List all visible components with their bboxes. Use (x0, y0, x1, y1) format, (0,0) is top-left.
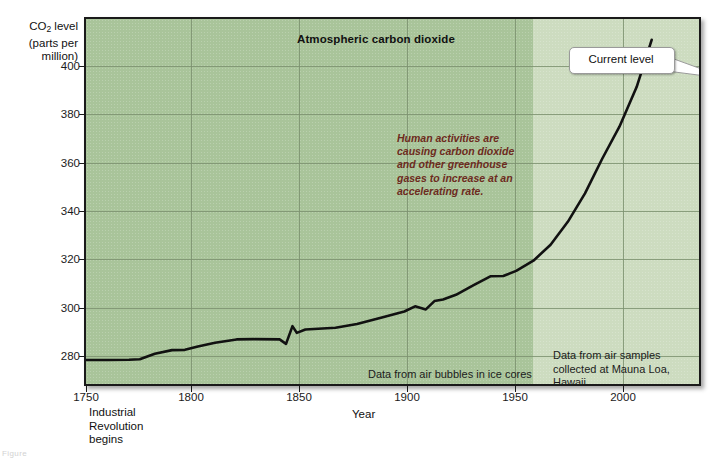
chart-title: Atmospheric carbon dioxide (297, 33, 455, 45)
x-tick-label-2000: 2000 (600, 391, 646, 403)
x-tick-label-1950: 1950 (492, 391, 538, 403)
chart-annotation: Human activities are causing carbon diox… (397, 132, 527, 198)
industrial-revolution-line1: Industrial (89, 406, 136, 418)
current-level-callout[interactable]: Current level (569, 47, 701, 87)
callout-label: Current level (569, 47, 673, 72)
figure-caption: Figure (2, 449, 27, 458)
x-tick-label-1800: 1800 (168, 391, 214, 403)
figure-container: CO2 level (parts per million) 400 380 36… (0, 0, 717, 458)
y-tick-label-360: 360 (34, 158, 80, 170)
x-tick-label-1850: 1850 (276, 391, 322, 403)
y-axis-title-co2: CO2 level (29, 20, 78, 32)
plot-area: Atmospheric carbon dioxide Human activit… (84, 17, 701, 386)
y-axis-unit: (parts per million) (29, 37, 78, 63)
x-tick-label-1900: 1900 (384, 391, 430, 403)
x-axis-title: Year (352, 408, 375, 420)
ice-core-region-label: Data from air bubbles in ice cores (368, 368, 532, 380)
y-tick-label-340: 340 (34, 206, 80, 218)
y-tick-label-380: 380 (34, 109, 80, 121)
y-tick-label-400: 400 (34, 61, 80, 73)
y-tick-label-320: 320 (34, 254, 80, 266)
industrial-revolution-note: Industrial Revolution begins (89, 406, 143, 447)
industrial-revolution-line3: begins (89, 433, 123, 445)
x-tick-label-1750: 1750 (63, 391, 109, 403)
industrial-revolution-line2: Revolution (89, 420, 143, 432)
y-axis-title: CO2 level (parts per million) (0, 20, 78, 64)
mauna-loa-region-label: Data from air samples collected at Mauna… (553, 349, 701, 386)
y-tick-label-280: 280 (34, 351, 80, 363)
y-tick-label-300: 300 (34, 303, 80, 315)
